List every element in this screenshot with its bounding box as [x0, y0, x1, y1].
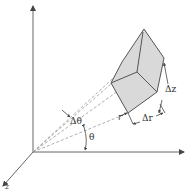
delta-theta-arrow: [62, 110, 70, 117]
theta-label: θ: [89, 133, 94, 142]
volume-element: [111, 29, 164, 113]
diagram-canvas: [0, 0, 186, 192]
delta-theta-label: Δθ: [70, 117, 82, 126]
delta-r-label: Δr: [142, 114, 153, 123]
z-axis: [3, 152, 33, 186]
delta-z-label: Δz: [165, 85, 176, 94]
z-axis-label: z: [5, 183, 9, 191]
r-label: r: [118, 113, 122, 122]
